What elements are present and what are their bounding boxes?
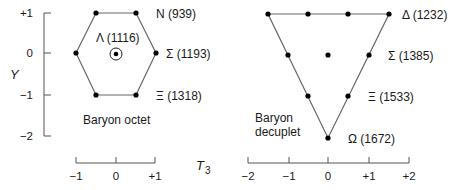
label-Xi-octet: Ξ (1318): [156, 89, 202, 103]
decuplet-x-tick-plus1: +1: [362, 170, 375, 182]
decuplet-dot: [285, 52, 290, 57]
decuplet-dot: [325, 52, 330, 57]
baryon-decuplet: Δ (1232) Σ (1385) Ξ (1533) Ω (1672) Bary…: [241, 8, 447, 182]
label-Sigma-decuplet: Σ (1385): [388, 49, 433, 63]
svg-text:3: 3: [205, 165, 211, 176]
t3-axis-label: T 3: [196, 158, 211, 176]
decuplet-dot: [345, 93, 350, 98]
octet-dot: [73, 50, 78, 55]
y-tick-minus2: −2: [20, 130, 33, 142]
label-Sigma-octet: Σ (1193): [166, 47, 211, 61]
label-Xi-decuplet: Ξ (1533): [368, 90, 414, 104]
decuplet-x-tick-0: 0: [325, 170, 331, 182]
octet-x-tick-minus1: −1: [69, 170, 82, 182]
octet-dot: [133, 92, 138, 97]
label-Omega: Ω (1672): [348, 132, 395, 146]
octet-dot: [133, 10, 138, 15]
decuplet-x-tick-minus1: −1: [282, 170, 295, 182]
octet-title: Baryon octet: [83, 113, 151, 127]
octet-x-tick-plus1: +1: [148, 170, 161, 182]
octet-dot: [153, 50, 158, 55]
label-Delta: Δ (1232): [402, 8, 447, 22]
y-axis-label: Y: [10, 67, 20, 82]
octet-x-tick-0: 0: [113, 170, 119, 182]
y-axis: +1 0 −1 −2 Y: [10, 7, 51, 142]
decuplet-dot: [305, 11, 310, 16]
octet-center-dot: [114, 52, 119, 57]
label-Lambda: Λ (1116): [96, 31, 140, 45]
svg-text:T: T: [196, 158, 205, 173]
octet-dot: [93, 92, 98, 97]
decuplet-dot: [345, 11, 350, 16]
decuplet-dot: [325, 135, 330, 140]
decuplet-dot: [366, 52, 371, 57]
y-tick-0: 0: [27, 47, 33, 59]
decuplet-title-line1: Baryon: [255, 111, 293, 125]
y-tick-plus1: +1: [20, 7, 33, 19]
decuplet-dot: [265, 11, 270, 16]
decuplet-x-tick-minus2: −2: [241, 170, 254, 182]
baryon-octet: N (939) Λ (1116) Σ (1193) Ξ (1318) Baryo…: [69, 7, 210, 182]
y-tick-minus1: −1: [20, 89, 33, 101]
octet-dot: [93, 10, 98, 15]
decuplet-title-line2: decuplet: [255, 125, 301, 139]
decuplet-x-tick-plus2: +2: [402, 170, 415, 182]
eightfold-way-diagram: +1 0 −1 −2 Y N (939) Λ (1116) Σ (1193) Ξ…: [0, 0, 451, 190]
decuplet-dot: [305, 93, 310, 98]
label-N: N (939): [156, 7, 196, 21]
decuplet-dot: [386, 11, 391, 16]
